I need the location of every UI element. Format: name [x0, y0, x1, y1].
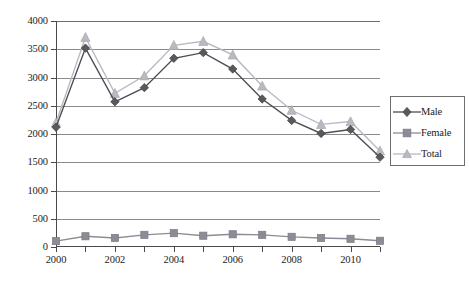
series-total [51, 33, 384, 155]
data-point [199, 48, 207, 56]
chart-legend: Male Female Total [390, 96, 465, 166]
legend-label-total: Total [421, 148, 442, 159]
series-line [56, 37, 380, 151]
data-point [317, 129, 325, 137]
data-point [111, 234, 118, 241]
data-point [347, 235, 354, 242]
data-point [82, 233, 89, 240]
square-marker-icon [393, 126, 421, 140]
data-point [228, 50, 237, 59]
data-point [229, 231, 236, 238]
data-point [288, 233, 295, 240]
data-point [376, 237, 383, 244]
data-point [81, 33, 90, 42]
triangle-marker-icon [393, 147, 421, 161]
diamond-marker-icon [393, 105, 421, 119]
data-point [259, 231, 266, 238]
legend-label-male: Male [421, 106, 442, 117]
data-point [52, 237, 59, 244]
data-point [317, 234, 324, 241]
legend-item-total: Total [391, 143, 464, 164]
legend-item-female: Female [391, 122, 464, 143]
data-point [111, 98, 119, 106]
data-point [200, 232, 207, 239]
data-point [170, 230, 177, 237]
line-chart: 05001000150020002500300035004000 2000200… [0, 0, 469, 283]
legend-label-female: Female [421, 127, 451, 138]
series-line [56, 48, 380, 157]
data-point [141, 231, 148, 238]
legend-item-male: Male [391, 101, 464, 122]
series-female [52, 230, 383, 245]
data-point [199, 37, 208, 46]
series-line [56, 233, 380, 241]
series-male [52, 44, 384, 161]
